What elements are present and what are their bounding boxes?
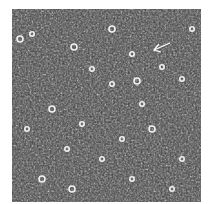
micrograph-texture: [12, 9, 201, 202]
micrograph-image: [12, 9, 201, 202]
cell-texture: [12, 9, 201, 202]
